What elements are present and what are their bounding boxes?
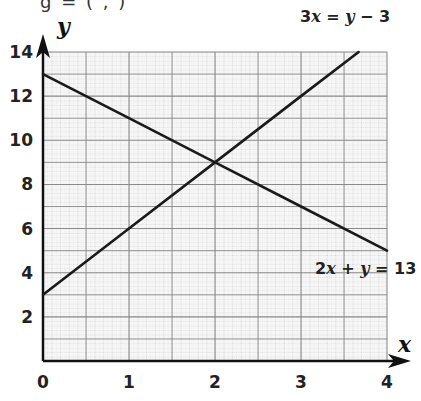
y-tick-4: 4 <box>21 263 33 283</box>
y-tick-2: 2 <box>21 307 33 327</box>
equation-label-line-2: 2x + y = 13 <box>315 259 416 278</box>
y-tick-14: 14 <box>9 42 33 62</box>
x-tick-3: 3 <box>295 372 307 392</box>
x-tick-0: 0 <box>37 372 49 392</box>
line-graph: 01234 2468101214 y x 3x = y − 3 2x + y =… <box>0 0 421 401</box>
y-tick-labels: 2468101214 <box>9 42 33 327</box>
y-axis-label: y <box>56 13 72 39</box>
y-tick-10: 10 <box>9 130 33 150</box>
x-tick-labels: 01234 <box>37 372 393 392</box>
x-axis-label: x <box>397 331 412 357</box>
x-tick-4: 4 <box>381 372 393 392</box>
equation-label-line-1: 3x = y − 3 <box>300 7 390 26</box>
y-tick-6: 6 <box>21 219 33 239</box>
x-tick-1: 1 <box>123 372 135 392</box>
x-tick-2: 2 <box>209 372 221 392</box>
y-tick-12: 12 <box>9 86 33 106</box>
grid <box>43 52 387 361</box>
y-tick-8: 8 <box>21 174 33 194</box>
